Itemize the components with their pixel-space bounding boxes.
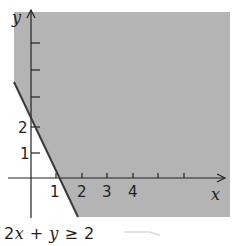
x-tick-label-4: 4 <box>128 183 138 201</box>
x-tick-label-3: 3 <box>102 183 112 201</box>
y-tick-label-2: 2 <box>18 119 28 137</box>
caption-x: x <box>15 224 25 243</box>
y-axis-label: y <box>11 8 22 27</box>
caption-plus: + <box>24 224 49 243</box>
decorative-mark <box>124 232 160 235</box>
x-tick-label-2: 2 <box>77 183 87 201</box>
x-axis-label: x <box>211 185 220 204</box>
y-tick-label-1: 1 <box>20 145 30 163</box>
caption-coef: 2 <box>4 224 15 243</box>
inequality-graph: y x 1 2 3 4 1 2 <box>0 0 235 246</box>
caption-relation: ≥ 2 <box>59 224 95 243</box>
shaded-region <box>14 12 230 217</box>
inequality-caption: 2x + y ≥ 2 <box>4 224 95 243</box>
caption-y: y <box>49 224 59 243</box>
x-tick-label-1: 1 <box>50 183 60 201</box>
